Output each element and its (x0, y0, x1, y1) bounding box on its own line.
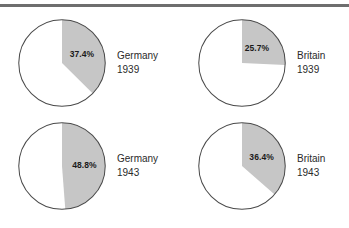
pie-svg (196, 120, 288, 212)
pie-chart-britain-1943: 36.4% (196, 120, 288, 212)
pie-caption-country: Britain (297, 50, 325, 61)
pie-chart-britain-1939: 25.7% (196, 17, 288, 109)
pie-svg (16, 17, 108, 109)
pie-caption: Britain 1939 (297, 49, 325, 75)
pie-chart-germany-1939: 37.4% (16, 17, 108, 109)
pie-panel-germany-1943: 48.8% Germany 1943 (0, 114, 180, 217)
pie-caption: Britain 1943 (297, 152, 325, 178)
pie-slice-shaded (242, 19, 285, 64)
pie-chart-germany-1943: 48.8% (16, 120, 108, 212)
pie-chart-figure: 37.4% Germany 1939 25.7% Britain 1939 (0, 0, 349, 228)
pie-caption-country: Germany (117, 153, 158, 164)
pie-caption: Germany 1943 (117, 152, 158, 178)
top-divider-rule (0, 4, 349, 7)
pie-caption: Germany 1939 (117, 49, 158, 75)
pie-caption-year: 1939 (297, 63, 325, 76)
pie-svg (196, 17, 288, 109)
pie-panel-germany-1939: 37.4% Germany 1939 (0, 11, 180, 114)
pie-caption-year: 1943 (117, 166, 158, 179)
pie-caption-year: 1943 (297, 166, 325, 179)
pie-slice-shaded (62, 122, 105, 208)
pie-panel-britain-1939: 25.7% Britain 1939 (180, 11, 349, 114)
pie-chart-grid: 37.4% Germany 1939 25.7% Britain 1939 (0, 11, 349, 217)
pie-caption-country: Britain (297, 153, 325, 164)
pie-caption-country: Germany (117, 50, 158, 61)
pie-caption-year: 1939 (117, 63, 158, 76)
pie-svg (16, 120, 108, 212)
pie-panel-britain-1943: 36.4% Britain 1943 (180, 114, 349, 217)
